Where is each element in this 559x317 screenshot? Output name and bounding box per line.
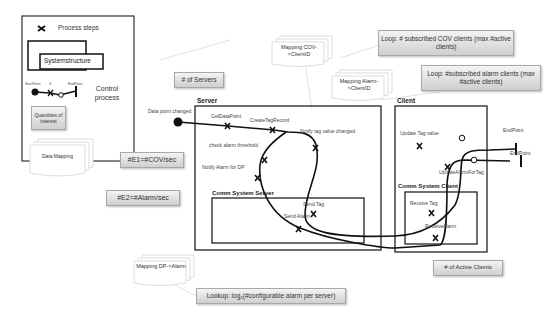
step-send-alarm: Send Alarm (284, 213, 310, 219)
mapping-alarm-client: Mapping Alarm->ClientID (333, 78, 385, 92)
step-send-tag: Send Tag (303, 201, 324, 207)
step-receive-tag: Receive Tag (410, 200, 437, 206)
legend-control-process: Control process (90, 84, 124, 102)
step-receive-alarm: ReceiveAlarm (425, 223, 456, 229)
legend-step: X (49, 82, 51, 86)
legend-data-mapping: Data Mapping (30, 153, 85, 160)
legend-system-structure: Systemstructure (44, 57, 91, 64)
servers-count-box: # of Servers (174, 72, 224, 88)
comm-client-title: Comm System Client (398, 183, 458, 189)
loop-cov-clients-box: Loop: # subscribed COV clients (max #act… (378, 30, 514, 56)
legend-quantities-box: Quantities of interest (31, 106, 66, 130)
legend-process-steps: Process steps (58, 24, 99, 31)
e1-cov-rate-box: #E1=#COV/sec (120, 152, 184, 168)
step-notify-alarm: Notify Alarm for DP (202, 164, 245, 170)
step-check-alarm: check alarm threshold (209, 142, 258, 148)
legend-endpoint: EndPoint (68, 82, 82, 86)
step-update-alarm: UpdateAlarmForTag (439, 169, 484, 175)
active-clients-box: # of Active Clients (433, 260, 503, 276)
lookup-alarm-box: Lookup: log₂(#configurable alarm per ser… (196, 288, 346, 304)
step-data-point-changed: Data point changed (148, 108, 191, 114)
step-endpoint-2: EndPoint (510, 150, 530, 156)
client-title: Client (397, 97, 415, 104)
server-title: Server (197, 97, 217, 104)
step-update-tag: Update Tag value (400, 130, 439, 136)
step-endpoint-1: EndPoint (503, 127, 523, 133)
client-box (395, 106, 487, 252)
comm-server-title: Comm System Server (212, 190, 274, 196)
legend-startpoint: StartPoint (25, 82, 40, 86)
mapping-cov-client: Mapping COV->ClientID (273, 44, 325, 58)
loop-alarm-clients-box: Loop: #subscribed alarm clients (max #ac… (421, 65, 541, 91)
e2-alarm-rate-box: #E2=#Alarm/sec (106, 190, 180, 206)
comm-server-box (212, 198, 364, 243)
mapping-dp-alarm: Mapping DP->Alarm (135, 263, 187, 270)
step-notify-tag: Notify tag value changed (300, 128, 355, 134)
step-get-data-point: GetDataPoint (211, 113, 241, 119)
step-create-tag-record: CreateTagRecord (250, 117, 289, 123)
